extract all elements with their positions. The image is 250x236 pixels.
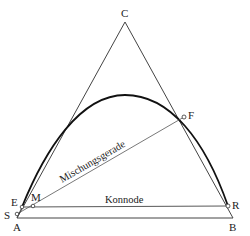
vertex-c-label: C	[121, 7, 128, 19]
point-f-marker	[182, 115, 186, 119]
tie-line-label: Konnode	[105, 194, 144, 205]
point-e-label: E	[11, 196, 18, 208]
vertex-a-label: A	[13, 221, 21, 233]
vertex-b-label: B	[229, 221, 236, 233]
triangle-outline	[17, 22, 233, 218]
point-m-marker	[31, 204, 35, 208]
point-s-marker	[15, 212, 19, 216]
point-r-label: R	[232, 199, 240, 211]
point-f-label: F	[188, 109, 194, 121]
ternary-diagram: C A B E S M F R Mischungsgerade Konnode	[0, 0, 250, 236]
point-r-marker	[226, 204, 230, 208]
tie-line	[22, 206, 228, 207]
point-m-label: M	[31, 191, 41, 203]
mixing-line-label: Mischungsgerade	[58, 138, 128, 185]
point-e-marker	[20, 205, 24, 209]
point-s-label: S	[4, 209, 10, 221]
